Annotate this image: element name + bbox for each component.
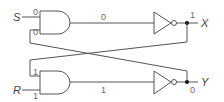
x-value: 1 bbox=[190, 10, 195, 20]
y-junction-dot bbox=[185, 80, 189, 84]
y-label: Y bbox=[201, 76, 209, 88]
latch-circuit: S R X Y 0 0 0 1 1 1 1 0 bbox=[0, 0, 224, 102]
top-inverter bbox=[154, 12, 171, 34]
x-label: X bbox=[200, 17, 209, 29]
bottom-inverter bbox=[154, 71, 171, 94]
s-label: S bbox=[13, 11, 21, 23]
top-gate-in1-value: 0 bbox=[33, 7, 38, 17]
top-gate-in2-value: 0 bbox=[33, 27, 38, 37]
bottom-gate-out-value: 1 bbox=[101, 85, 106, 95]
y-value: 0 bbox=[190, 85, 195, 95]
top-inverter-bubble bbox=[172, 21, 177, 26]
bottom-inverter-bubble bbox=[172, 80, 177, 85]
top-gate-out-value: 0 bbox=[101, 12, 106, 22]
bottom-gate-in2-value: 1 bbox=[33, 91, 38, 101]
bottom-and-gate bbox=[40, 71, 70, 94]
r-label: R bbox=[13, 84, 21, 96]
top-and-gate bbox=[40, 11, 70, 34]
bottom-gate-in1-value: 1 bbox=[33, 67, 38, 77]
